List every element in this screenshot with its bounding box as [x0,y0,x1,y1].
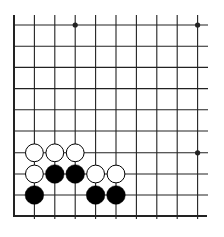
black-stone[interactable] [46,165,65,184]
go-board[interactable] [0,0,224,237]
star-point [195,22,200,27]
white-stone[interactable] [87,165,105,183]
black-stone[interactable] [107,186,126,205]
black-stone[interactable] [66,165,85,184]
black-stone[interactable] [86,186,105,205]
white-stone[interactable] [26,165,44,183]
white-stone[interactable] [46,144,64,162]
white-stone[interactable] [107,165,125,183]
star-point [195,150,200,155]
white-stone[interactable] [66,144,84,162]
black-stone[interactable] [25,186,44,205]
star-point [73,22,78,27]
white-stone[interactable] [26,144,44,162]
